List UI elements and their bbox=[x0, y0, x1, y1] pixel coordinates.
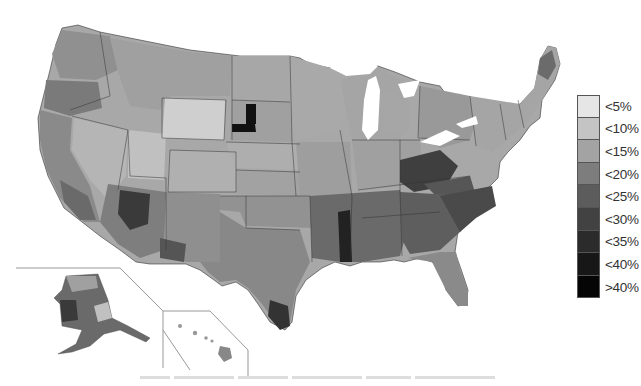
legend-item-7: <35% bbox=[577, 231, 641, 254]
legend-swatch bbox=[577, 95, 600, 118]
legend-item-3: <15% bbox=[577, 140, 641, 163]
legend-label: >40% bbox=[605, 280, 639, 295]
legend-label: <10% bbox=[605, 121, 639, 136]
legend-swatch bbox=[577, 185, 600, 208]
legend-item-8: <40% bbox=[577, 253, 641, 276]
caption-illegible bbox=[140, 376, 520, 380]
legend-swatch bbox=[577, 231, 600, 254]
legend-item-6: <30% bbox=[577, 208, 641, 231]
alaska-inset bbox=[16, 268, 163, 368]
us-choropleth-map bbox=[0, 0, 641, 386]
legend-label: <25% bbox=[605, 189, 639, 204]
legend-item-4: <20% bbox=[577, 163, 641, 186]
legend-item-5: <25% bbox=[577, 185, 641, 208]
legend-label: <15% bbox=[605, 144, 639, 159]
legend-label: <35% bbox=[605, 234, 639, 249]
legend-swatch bbox=[577, 253, 600, 276]
legend: <5% <10% <15% <20% <25% <30% <35% <40% >… bbox=[577, 95, 641, 298]
legend-label: <20% bbox=[605, 167, 639, 182]
legend-label: <30% bbox=[605, 212, 639, 227]
legend-item-2: <10% bbox=[577, 118, 641, 141]
legend-label: <40% bbox=[605, 257, 639, 272]
legend-swatch bbox=[577, 118, 600, 141]
legend-swatch bbox=[577, 163, 600, 186]
legend-swatch bbox=[577, 208, 600, 231]
hawaii-inset bbox=[163, 311, 248, 378]
legend-swatch bbox=[577, 140, 600, 163]
legend-item-9: >40% bbox=[577, 276, 641, 299]
legend-item-1: <5% bbox=[577, 95, 641, 118]
legend-label: <5% bbox=[605, 99, 632, 114]
legend-swatch bbox=[577, 276, 600, 299]
